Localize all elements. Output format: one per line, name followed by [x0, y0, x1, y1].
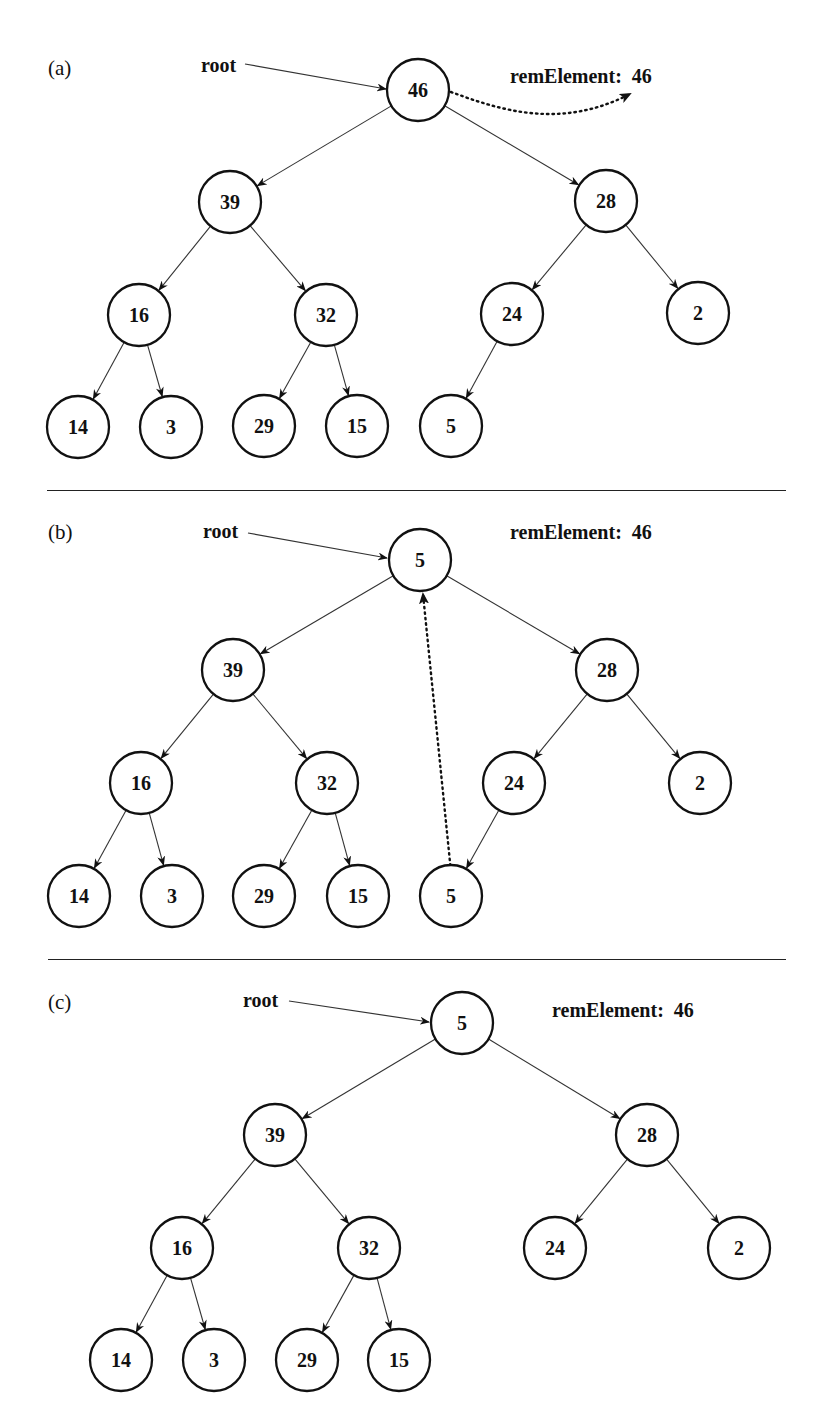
node-value: 46 — [408, 79, 428, 101]
node-value: 29 — [297, 1349, 317, 1371]
heap-node: 39 — [244, 1104, 306, 1166]
node-value: 3 — [167, 885, 177, 907]
root-pointer-label: root — [243, 990, 278, 1010]
heap-node: 5 — [420, 865, 482, 927]
node-value: 29 — [254, 885, 274, 907]
tree-edge-arrow — [257, 106, 391, 186]
heap-node: 39 — [199, 171, 261, 233]
tree-edge-arrow — [627, 694, 680, 758]
node-value: 32 — [317, 772, 337, 794]
tree-edge-arrow — [94, 810, 126, 868]
root-pointer-label: root — [203, 521, 238, 541]
node-value: 16 — [131, 772, 151, 794]
rem-element-label: remElement: 46 — [552, 1000, 694, 1020]
tree-edge-arrow — [280, 342, 311, 398]
node-value: 15 — [389, 1349, 409, 1371]
heap-node: 5 — [431, 992, 493, 1054]
heap-node: 24 — [483, 752, 545, 814]
panel-c: 5392816322421432915 — [90, 992, 770, 1391]
node-value: 5 — [446, 885, 456, 907]
heap-node: 15 — [326, 395, 388, 457]
tree-edge-arrow — [626, 225, 678, 288]
diagram-canvas: 4639281632242143291555392816322421432915… — [0, 0, 820, 1415]
heap-node: 28 — [576, 639, 638, 701]
panel-label: (b) — [48, 522, 73, 543]
tree-edge-arrow — [575, 1159, 627, 1223]
heap-node: 16 — [151, 1217, 213, 1279]
heap-node: 14 — [47, 396, 109, 458]
tree-edge-arrow — [202, 1159, 255, 1223]
root-pointer-arrow — [245, 64, 386, 89]
node-value: 24 — [545, 1237, 565, 1259]
rem-element-value: 46 — [664, 999, 694, 1021]
panel-separator — [48, 959, 786, 960]
node-value: 2 — [695, 772, 705, 794]
tree-edge-arrow — [445, 106, 579, 185]
rem-element-label: remElement: 46 — [510, 522, 652, 542]
node-value: 2 — [693, 302, 703, 324]
heap-node: 16 — [110, 752, 172, 814]
tree-edge-arrow — [377, 1278, 391, 1329]
heap-node: 32 — [338, 1217, 400, 1279]
heap-node: 39 — [202, 639, 264, 701]
heap-node: 3 — [183, 1329, 245, 1391]
heap-node: 5 — [389, 529, 451, 591]
tree-edge-arrow — [161, 694, 213, 758]
heap-node: 29 — [276, 1329, 338, 1391]
heap-node: 32 — [296, 752, 358, 814]
panel-separator — [47, 490, 786, 491]
heap-node: 2 — [669, 752, 731, 814]
tree-edge-arrow — [466, 341, 497, 398]
tree-edge-arrow — [447, 576, 580, 654]
panel-label: (a) — [48, 58, 71, 79]
tree-edge-arrow — [534, 694, 587, 758]
tree-edge-arrow — [334, 345, 348, 395]
panel-label: (c) — [48, 992, 71, 1013]
tree-edge-arrow — [149, 813, 163, 865]
tree-edge-arrow — [159, 226, 210, 290]
heap-node: 5 — [420, 395, 482, 457]
tree-edge-arrow — [148, 345, 163, 396]
panel-a: 463928163224214329155 — [47, 59, 729, 458]
panel-b: 53928163224214329155 — [48, 529, 731, 927]
rem-element-label: remElement: 46 — [510, 66, 652, 86]
rem-element-value: 46 — [622, 521, 652, 543]
node-value: 28 — [597, 659, 617, 681]
tree-edge-arrow — [253, 694, 307, 759]
heap-node: 32 — [295, 284, 357, 346]
node-value: 14 — [69, 885, 89, 907]
root-pointer-arrow — [289, 1001, 429, 1022]
node-value: 3 — [209, 1349, 219, 1371]
heap-node: 14 — [48, 865, 110, 927]
tree-edge-arrow — [532, 225, 586, 290]
node-value: 2 — [734, 1237, 744, 1259]
heap-removal-figure: 4639281632242143291555392816322421432915… — [0, 0, 820, 1415]
heap-node: 16 — [108, 284, 170, 346]
heap-node: 24 — [481, 283, 543, 345]
tree-edge-arrow — [302, 1039, 435, 1119]
heap-node: 3 — [141, 865, 203, 927]
heap-node: 28 — [616, 1104, 678, 1166]
heap-node: 3 — [140, 396, 202, 458]
tree-edge-arrow — [250, 226, 305, 291]
tree-edge-arrow — [93, 342, 124, 399]
dotted-move-arrow — [451, 92, 630, 114]
tree-edge-arrow — [191, 1278, 206, 1329]
node-value: 3 — [166, 416, 176, 438]
heap-node: 2 — [667, 282, 729, 344]
heap-node: 28 — [575, 170, 637, 232]
heap-node: 15 — [368, 1329, 430, 1391]
node-value: 14 — [111, 1349, 131, 1371]
node-value: 15 — [347, 415, 367, 437]
tree-edge-arrow — [667, 1159, 719, 1223]
node-value: 5 — [415, 549, 425, 571]
tree-edge-arrow — [335, 813, 349, 865]
node-value: 16 — [172, 1237, 192, 1259]
tree-edge-arrow — [467, 810, 499, 868]
node-value: 5 — [446, 415, 456, 437]
node-value: 28 — [637, 1124, 657, 1146]
rem-element-value: 46 — [622, 65, 652, 87]
node-value: 24 — [502, 303, 522, 325]
heap-node: 29 — [233, 865, 295, 927]
heap-node: 24 — [524, 1217, 586, 1279]
